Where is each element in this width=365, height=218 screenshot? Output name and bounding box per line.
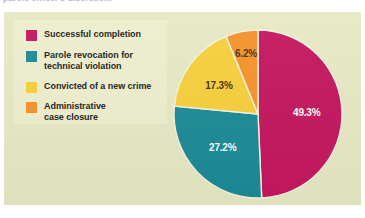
caption-text: parole officer's discretion. — [3, 0, 112, 3]
legend-item-label: Successful completion — [44, 29, 141, 40]
pie-chart: 49.3%27.2%17.3%6.2% — [172, 28, 344, 200]
figure-panel: Successful completion Parole revocation … — [4, 12, 361, 205]
legend-item[interactable]: Parole revocation for technical violatio… — [26, 50, 133, 71]
legend-item[interactable]: Successful completion — [26, 29, 141, 41]
legend-swatch-convicted-new-crime — [26, 82, 37, 93]
chart-legend: Successful completion Parole revocation … — [14, 20, 167, 124]
legend-swatch-administrative-closure — [26, 102, 37, 113]
legend-swatch-successful-completion — [26, 30, 37, 41]
pie-chart-svg: 49.3%27.2%17.3%6.2% — [172, 28, 344, 200]
page-margin-left — [0, 12, 4, 205]
pie-slice-label: 17.3% — [205, 80, 233, 91]
pie-slice-label: 49.3% — [293, 107, 321, 118]
legend-item-label: Administrative case closure — [44, 101, 106, 122]
page-margin-bottom — [0, 205, 365, 218]
legend-item-label: Parole revocation for technical violatio… — [44, 50, 133, 71]
pie-slice-label: 6.2% — [235, 48, 257, 59]
legend-swatch-parole-revocation — [26, 51, 37, 62]
page-margin-right — [361, 12, 365, 205]
legend-item-label: Convicted of a new crime — [44, 81, 151, 92]
caption-clip: parole officer's discretion. — [0, 0, 365, 12]
legend-item[interactable]: Convicted of a new crime — [26, 81, 151, 93]
pie-slice-label: 27.2% — [209, 142, 237, 153]
legend-item[interactable]: Administrative case closure — [26, 101, 106, 122]
